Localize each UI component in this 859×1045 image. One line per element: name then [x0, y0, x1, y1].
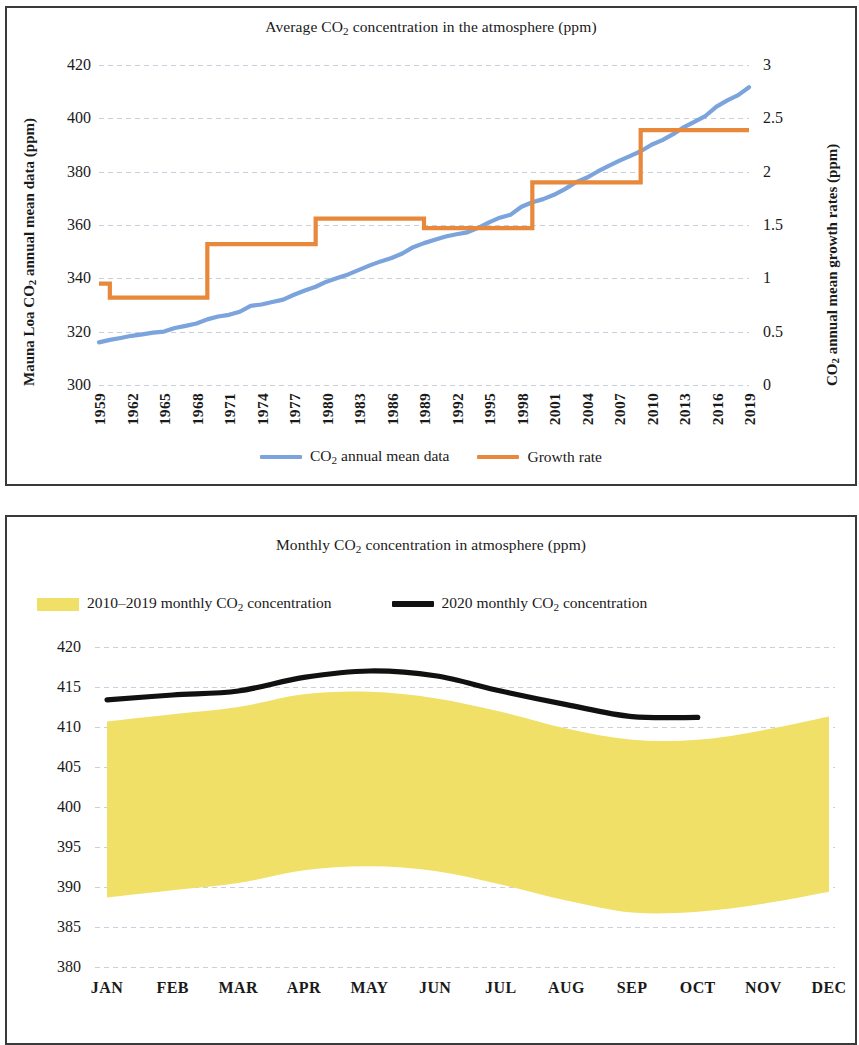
x-tick-label: 1974: [254, 393, 272, 425]
legend-item[interactable]: CO2 annual mean data: [260, 448, 449, 466]
legend-label: Growth rate: [527, 449, 601, 465]
y-tick-label: 405: [27, 758, 81, 776]
x-tick-label: 1995: [481, 393, 499, 425]
legend-line-swatch-icon: [260, 455, 302, 459]
chart2-plot-area: [95, 647, 835, 967]
chart2-title: Monthly CO2 concentration in atmosphere …: [7, 536, 855, 555]
gridline: [95, 967, 835, 968]
month-tick-label: NOV: [733, 979, 793, 997]
decadal-range-band: [107, 692, 829, 914]
legend-label: 2020 monthly CO2 concentration: [442, 595, 648, 613]
y-tick-label: 390: [27, 878, 81, 896]
legend-item[interactable]: 2020 monthly CO2 concentration: [392, 595, 648, 613]
x-tick-label: 1971: [221, 393, 239, 425]
legend-box-swatch-icon: [37, 598, 79, 611]
y-tick-label: 300: [47, 376, 91, 394]
y2-tick-label: 2.5: [763, 109, 807, 127]
month-tick-label: SEP: [602, 979, 662, 997]
x-tick-label: 2007: [611, 393, 629, 425]
month-tick-label: APR: [274, 979, 334, 997]
y-tick-label: 395: [27, 838, 81, 856]
y-tick-label: 320: [47, 323, 91, 341]
chart1-plot-area: [99, 65, 749, 385]
legend-line-swatch-icon: [477, 455, 519, 459]
y-tick-label: 400: [27, 798, 81, 816]
co2-monthly-chart-panel: Monthly CO2 concentration in atmosphere …: [5, 515, 857, 1045]
x-tick-label: 1989: [416, 393, 434, 425]
x-tick-label: 1983: [351, 393, 369, 425]
y-tick-label: 410: [27, 718, 81, 736]
y-tick-label: 360: [47, 216, 91, 234]
month-tick-label: FEB: [143, 979, 203, 997]
x-tick-label: 2001: [546, 393, 564, 425]
month-tick-label: AUG: [536, 979, 596, 997]
y-tick-label: 420: [47, 56, 91, 74]
y2-tick-label: 0: [763, 376, 807, 394]
chart1-right-axis-title: CO2 annual mean growth rates (ppm): [824, 56, 841, 386]
y-tick-label: 380: [27, 958, 81, 976]
y-tick-label: 415: [27, 678, 81, 696]
legend-item[interactable]: Growth rate: [477, 449, 601, 465]
co2-annual-mean-line: [99, 87, 749, 342]
month-tick-label: JUN: [405, 979, 465, 997]
y-tick-label: 340: [47, 269, 91, 287]
x-tick-label: 1992: [449, 393, 467, 425]
chart1-series-canvas: [99, 65, 749, 385]
x-tick-label: 1980: [319, 393, 337, 425]
x-tick-label: 2019: [741, 393, 759, 425]
chart2-series-canvas: [95, 647, 835, 967]
month-tick-label: OCT: [668, 979, 728, 997]
x-tick-label: 1959: [91, 393, 109, 425]
x-tick-label: 2004: [579, 393, 597, 425]
x-tick-label: 1998: [514, 393, 532, 425]
month-tick-label: JUL: [471, 979, 531, 997]
x-tick-label: 2016: [709, 393, 727, 425]
y-tick-label: 400: [47, 109, 91, 127]
y2-tick-label: 3: [763, 56, 807, 74]
legend-line-swatch-icon: [392, 601, 434, 607]
y2-tick-label: 0.5: [763, 323, 807, 341]
x-tick-label: 1965: [156, 393, 174, 425]
month-tick-label: JAN: [77, 979, 137, 997]
legend-label: CO2 annual mean data: [310, 448, 449, 466]
chart1-legend: CO2 annual mean dataGrowth rate: [7, 448, 855, 466]
x-tick-label: 2010: [644, 393, 662, 425]
y-tick-label: 380: [47, 163, 91, 181]
gridline: [99, 385, 749, 386]
legend-label: 2010–2019 monthly CO2 concentration: [87, 595, 332, 613]
x-tick-label: 1962: [124, 393, 142, 425]
x-tick-label: 1986: [384, 393, 402, 425]
x-tick-label: 1968: [189, 393, 207, 425]
chart2-legend: 2010–2019 monthly CO2 concentration2020 …: [37, 595, 845, 613]
growth-rate-step-line: [99, 130, 749, 297]
month-tick-label: MAR: [208, 979, 268, 997]
month-tick-label: DEC: [799, 979, 859, 997]
co2-annual-chart-panel: Average CO2 concentration in the atmosph…: [5, 6, 857, 486]
x-tick-label: 1977: [286, 393, 304, 425]
y2-tick-label: 1.5: [763, 216, 807, 234]
legend-item[interactable]: 2010–2019 monthly CO2 concentration: [37, 595, 332, 613]
chart1-title: Average CO2 concentration in the atmosph…: [7, 18, 855, 37]
y2-tick-label: 2: [763, 163, 807, 181]
y-tick-label: 420: [27, 638, 81, 656]
month-tick-label: MAY: [340, 979, 400, 997]
y2-tick-label: 1: [763, 269, 807, 287]
chart1-left-axis-title: Mauna Loa CO2 annual mean data (ppm): [21, 66, 38, 386]
y-tick-label: 385: [27, 918, 81, 936]
x-tick-label: 2013: [676, 393, 694, 425]
